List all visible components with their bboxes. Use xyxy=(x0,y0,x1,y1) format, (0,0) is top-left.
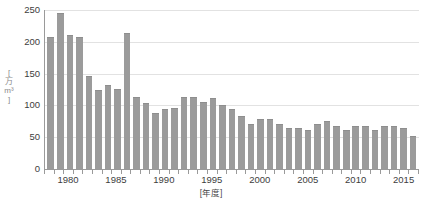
bar xyxy=(238,116,245,169)
bar xyxy=(86,76,93,169)
bar xyxy=(276,124,283,169)
y-tick-label: 100 xyxy=(14,100,40,110)
x-tick-mark xyxy=(102,170,103,174)
bar xyxy=(124,33,131,169)
bar xyxy=(219,105,226,169)
bar-series xyxy=(45,10,419,169)
bar-slot xyxy=(284,10,294,169)
bar xyxy=(171,108,178,169)
x-tick-label: 1980 xyxy=(57,175,78,185)
bar-slot xyxy=(84,10,94,169)
x-tick-mark xyxy=(149,170,150,174)
bar-slot xyxy=(303,10,313,169)
bar-slot xyxy=(227,10,237,169)
bar-slot xyxy=(399,10,409,169)
bar xyxy=(257,119,264,169)
x-tick-mark xyxy=(197,170,198,174)
bar-slot xyxy=(199,10,209,169)
plot-area xyxy=(44,10,419,170)
x-tick-mark xyxy=(92,170,93,174)
x-tick-mark xyxy=(226,170,227,174)
bar-slot xyxy=(265,10,275,169)
bar-slot xyxy=(103,10,113,169)
x-tick-mark xyxy=(322,170,323,174)
bar-slot xyxy=(141,10,151,169)
x-tick-mark xyxy=(341,170,342,174)
bar-slot xyxy=(380,10,390,169)
bar-slot xyxy=(351,10,361,169)
x-tick-label: 1995 xyxy=(201,175,222,185)
bar xyxy=(324,121,331,169)
bar xyxy=(314,124,321,169)
bar xyxy=(305,130,312,169)
y-tick-label: 150 xyxy=(14,69,40,79)
bar-slot xyxy=(179,10,189,169)
bar xyxy=(410,136,417,169)
x-tick-mark xyxy=(332,170,333,174)
x-tick-mark xyxy=(293,170,294,174)
x-tick-mark xyxy=(245,170,246,174)
bar-slot xyxy=(256,10,266,169)
bar xyxy=(210,98,217,169)
bar xyxy=(105,85,112,169)
bar xyxy=(190,97,197,170)
x-tick-mark xyxy=(130,170,131,174)
bar-slot xyxy=(218,10,228,169)
y-tick-label: 0 xyxy=(14,164,40,174)
bar-slot xyxy=(46,10,56,169)
x-tick-mark xyxy=(44,170,45,174)
x-tick-mark xyxy=(188,170,189,174)
bar xyxy=(200,102,207,169)
bar-slot xyxy=(313,10,323,169)
bar xyxy=(362,126,369,169)
bar-slot xyxy=(408,10,418,169)
x-tick-label: 2010 xyxy=(345,175,366,185)
bar xyxy=(181,97,188,170)
x-tick-mark xyxy=(140,170,141,174)
bar xyxy=(372,130,379,169)
y-tick-label: 250 xyxy=(14,5,40,15)
bar xyxy=(267,119,274,169)
x-tick-mark xyxy=(370,170,371,174)
bar xyxy=(76,37,83,169)
bar-slot xyxy=(132,10,142,169)
bar-slot xyxy=(275,10,285,169)
bar-slot xyxy=(113,10,123,169)
y-tick-label: 200 xyxy=(14,37,40,47)
x-tick-mark xyxy=(380,170,381,174)
bar xyxy=(229,109,236,169)
bar-slot xyxy=(56,10,66,169)
bar xyxy=(391,126,398,169)
x-tick-mark xyxy=(284,170,285,174)
bar-slot xyxy=(361,10,371,169)
bar xyxy=(47,37,54,169)
bar xyxy=(143,103,150,169)
bar xyxy=(67,35,74,169)
bar-slot xyxy=(389,10,399,169)
x-tick-mark xyxy=(54,170,55,174)
bar xyxy=(333,126,340,169)
bar xyxy=(381,126,388,169)
x-tick-label: 2000 xyxy=(249,175,270,185)
bar-slot xyxy=(160,10,170,169)
bar xyxy=(162,109,169,169)
bar xyxy=(286,128,293,169)
x-tick-mark xyxy=(178,170,179,174)
bar-slot xyxy=(208,10,218,169)
bar-slot xyxy=(122,10,132,169)
bar-slot xyxy=(370,10,380,169)
bar xyxy=(152,113,159,169)
bar-slot xyxy=(189,10,199,169)
bar-slot xyxy=(341,10,351,169)
x-tick-mark xyxy=(82,170,83,174)
y-axis-tick-labels: 250200150100500 xyxy=(12,0,40,215)
bar-slot xyxy=(94,10,104,169)
x-axis-title: [年度] xyxy=(0,188,422,198)
bar xyxy=(295,128,302,169)
bar xyxy=(352,126,359,169)
x-tick-label: 2005 xyxy=(297,175,318,185)
bar xyxy=(95,90,102,170)
x-tick-mark xyxy=(236,170,237,174)
bar xyxy=(133,97,140,170)
x-tick-label: 2015 xyxy=(393,175,414,185)
